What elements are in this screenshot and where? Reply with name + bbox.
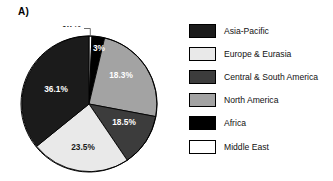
panel-label: A) (18, 6, 29, 18)
legend-item-north-america[interactable]: North America (189, 89, 331, 112)
legend-item-central-south-america[interactable]: Central & South America (189, 65, 331, 88)
leader-line-middle-east (84, 29, 90, 37)
pie-chart-svg: 0.7% 3% 18.3% 18.5% 23.5% 36.1% (13, 26, 173, 178)
legend-label-europe-eurasia: Europe & Eurasia (224, 49, 291, 59)
legend-label-central-south-america: Central & South America (224, 72, 318, 82)
legend-swatch-europe-eurasia (189, 47, 216, 61)
legend-swatch-north-america (189, 93, 216, 107)
pie-label-north-america: 18.3% (109, 70, 133, 80)
legend: Asia-Pacific Europe & Eurasia Central & … (189, 19, 331, 171)
legend-label-asia-pacific: Asia-Pacific (224, 26, 269, 36)
legend-swatch-central-south-america (189, 70, 216, 84)
legend-item-middle-east[interactable]: Middle East (189, 135, 331, 158)
figure-panel-a: A) 0.7% 3% 18.3% 18.5% (0, 0, 333, 181)
pie-label-asia-pacific: 36.1% (44, 84, 68, 94)
pie-label-central-south-america: 18.5% (112, 117, 136, 127)
legend-label-north-america: North America (224, 95, 278, 105)
legend-item-africa[interactable]: Africa (189, 112, 331, 135)
legend-swatch-asia-pacific (189, 24, 216, 38)
pie-chart: 0.7% 3% 18.3% 18.5% 23.5% 36.1% (13, 26, 173, 178)
pie-label-middle-east: 0.7% (62, 26, 82, 29)
pie-label-europe-eurasia: 23.5% (71, 142, 95, 152)
legend-label-middle-east: Middle East (224, 142, 269, 152)
legend-item-europe-eurasia[interactable]: Europe & Eurasia (189, 42, 331, 65)
legend-swatch-africa (189, 116, 216, 130)
legend-swatch-middle-east (189, 140, 216, 154)
pie-label-africa: 3% (93, 43, 106, 53)
legend-label-africa: Africa (224, 118, 246, 128)
legend-item-asia-pacific[interactable]: Asia-Pacific (189, 19, 331, 42)
